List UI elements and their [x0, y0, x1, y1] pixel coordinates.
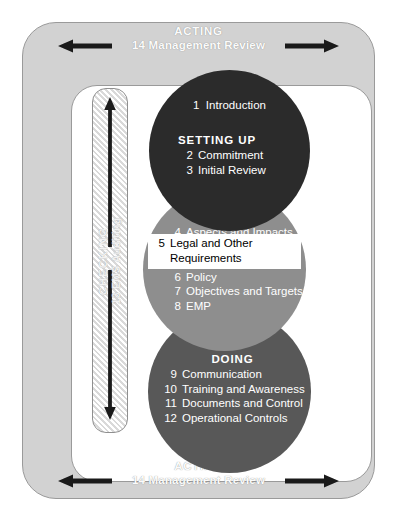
- highlight-line-2: Requirements: [152, 251, 299, 266]
- item-number: 7: [164, 284, 181, 299]
- item-number: 2: [176, 148, 193, 163]
- list-item: 10 Training and Awareness: [160, 382, 311, 397]
- item-number: 11: [160, 396, 177, 411]
- item-number: 3: [176, 163, 193, 178]
- checking-subtitle: 13 EMS Auditing: [110, 217, 123, 304]
- item-label: Communication: [182, 367, 262, 382]
- list-item: 12 Operational Controls: [160, 411, 311, 426]
- list-item: 6 Policy: [164, 270, 306, 285]
- item-label: Introduction: [206, 99, 266, 111]
- item-label: Objectives and Targets: [186, 284, 303, 299]
- item-label: Commitment: [198, 148, 263, 163]
- item-number: 12: [160, 411, 177, 426]
- item-number: 1: [193, 99, 199, 111]
- highlight-line-1: 5 Legal and Other: [152, 236, 299, 251]
- item-label: EMP: [186, 299, 211, 314]
- checking-title: CHECKING: [97, 217, 110, 304]
- item-number: 8: [164, 299, 181, 314]
- list-item: 7 Objectives and Targets: [164, 284, 306, 299]
- list-item: 11 Documents and Control: [160, 396, 311, 411]
- item-label: Initial Review: [198, 163, 266, 178]
- list-item: 8 EMP: [164, 299, 306, 314]
- ems-cycle-diagram: ACTING 14 Management Review ACTING 14 Ma…: [0, 0, 397, 521]
- item-label: Policy: [186, 270, 217, 285]
- list-item: 9 Communication: [160, 367, 311, 382]
- item-label: Training and Awareness: [182, 382, 305, 397]
- highlighted-item-callout[interactable]: 5 Legal and Other Requirements: [148, 234, 301, 269]
- item-number: 5: [152, 236, 165, 251]
- checking-bar: CHECKING 13 EMS Auditing: [92, 88, 128, 433]
- item-number: 6: [164, 270, 181, 285]
- doing-content: DOING 9 Communication 10 Training and Aw…: [148, 352, 311, 425]
- setting-up-title: SETTING UP: [176, 133, 310, 148]
- item-label: Documents and Control: [182, 396, 303, 411]
- checking-label-group: CHECKING 13 EMS Auditing: [97, 217, 123, 304]
- item-label: Legal and Other: [170, 236, 252, 251]
- setting-up-content: SETTING UP 2 Commitment 3 Initial Review: [149, 133, 310, 177]
- item-number: 9: [160, 367, 177, 382]
- item-number: 10: [160, 382, 177, 397]
- list-item: 2 Commitment: [176, 148, 310, 163]
- item-label: Operational Controls: [182, 411, 287, 426]
- list-item: 3 Initial Review: [176, 163, 310, 178]
- setting-up-circle: 1 Introduction SETTING UP 2 Commitment 3…: [149, 70, 310, 231]
- doing-title: DOING: [160, 352, 311, 367]
- introduction-row: 1 Introduction: [149, 98, 310, 113]
